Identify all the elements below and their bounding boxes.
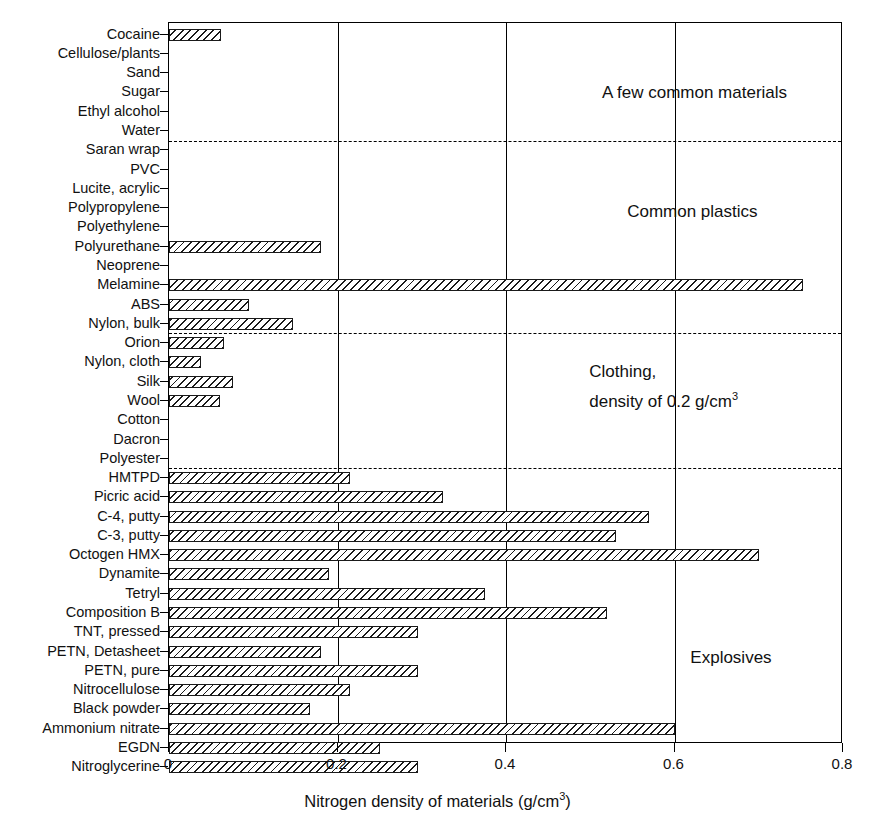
y-axis-label: Lucite, acrylic [8,181,160,195]
bar [169,395,220,407]
y-tick [160,419,168,420]
y-axis-label: Black powder [8,701,160,715]
group-annotation: Explosives [690,647,771,668]
group-separator [169,333,841,334]
y-tick [160,612,168,613]
y-axis-label: Polyurethane [8,239,160,253]
y-axis-label: Polypropylene [8,200,160,214]
group-annotation: Clothing, [589,361,656,382]
y-axis-label: Water [8,123,160,137]
bar [169,29,221,41]
annotation-superscript: 3 [732,390,738,402]
bar [169,241,321,253]
y-tick [160,111,168,112]
y-tick [160,188,168,189]
y-axis-label: Sugar [8,84,160,98]
y-axis-labels: CocaineCellulose/plantsSandSugarEthyl al… [0,0,160,831]
y-axis-label: C-4, putty [8,509,160,523]
y-tick [160,207,168,208]
y-tick [160,361,168,362]
y-tick [160,130,168,131]
bar [169,742,380,754]
y-axis-label: PVC [8,162,160,176]
y-axis-label: Nitrocellulose [8,682,160,696]
y-axis-label: Ammonium nitrate [8,721,160,735]
y-axis-label: Polyethylene [8,219,160,233]
bar [169,761,418,773]
y-axis-label: Melamine [8,277,160,291]
y-axis-label: Saran wrap [8,142,160,156]
gridline-0.6 [675,23,676,742]
bar [169,376,233,388]
y-tick [160,265,168,266]
x-tick [505,743,506,752]
y-axis-label: Nylon, bulk [8,316,160,330]
y-tick [160,728,168,729]
x-tick [842,743,843,752]
bar [169,511,649,523]
bar [169,337,224,349]
y-axis-label: Dynamite [8,566,160,580]
y-tick [160,304,168,305]
nitrogen-density-bar-chart: CocaineCellulose/plantsSandSugarEthyl al… [0,0,875,831]
y-axis-label: Cocaine [8,27,160,41]
x-tick-label: 0.6 [663,755,684,772]
x-axis-title: Nitrogen density of materials (g/cm3) [0,790,875,811]
y-tick [160,670,168,671]
bar [169,279,803,291]
y-tick [160,169,168,170]
x-tick [337,743,338,752]
bar [169,723,675,735]
y-tick [160,323,168,324]
y-tick [160,747,168,748]
y-tick [160,593,168,594]
y-axis-label: Composition B [8,605,160,619]
x-tick-label: 0.4 [495,755,516,772]
y-tick [160,53,168,54]
x-axis-title-tail: ) [565,792,571,810]
y-tick [160,535,168,536]
y-tick [160,72,168,73]
bar [169,607,607,619]
y-axis-label: Octogen HMX [8,547,160,561]
group-annotation: density of 0.2 g/cm3 [589,386,738,412]
bar [169,318,293,330]
x-tick-label: 0.2 [326,755,347,772]
x-tick-label: 0.8 [832,755,853,772]
y-tick [160,689,168,690]
y-axis-label: Tetryl [8,586,160,600]
y-axis-label: Cotton [8,412,160,426]
x-axis-title-text: Nitrogen density of materials (g/cm [304,792,559,810]
bar [169,549,759,561]
y-axis-label: HMTPD [8,470,160,484]
y-axis-label: PETN, pure [8,663,160,677]
y-axis-label: Silk [8,374,160,388]
y-tick [160,400,168,401]
bar [169,588,485,600]
y-axis-label: Neoprene [8,258,160,272]
y-tick [160,284,168,285]
y-tick [160,226,168,227]
y-tick [160,246,168,247]
y-tick [160,34,168,35]
y-tick [160,342,168,343]
y-tick [160,477,168,478]
bar [169,703,310,715]
bar [169,568,329,580]
x-tick-label: 0 [164,755,172,772]
y-axis-label: Dacron [8,432,160,446]
plot-area [168,22,842,743]
y-axis-label: Sand [8,65,160,79]
y-tick [160,554,168,555]
bar [169,665,418,677]
y-axis-label: ABS [8,297,160,311]
y-axis-label: Nitroglycerine [8,759,160,773]
x-tick [674,743,675,752]
y-tick [160,496,168,497]
bar [169,684,350,696]
y-tick [160,708,168,709]
bar [169,646,321,658]
y-axis-label: EGDN [8,740,160,754]
bar [169,299,249,311]
y-axis-label: Polyester [8,451,160,465]
